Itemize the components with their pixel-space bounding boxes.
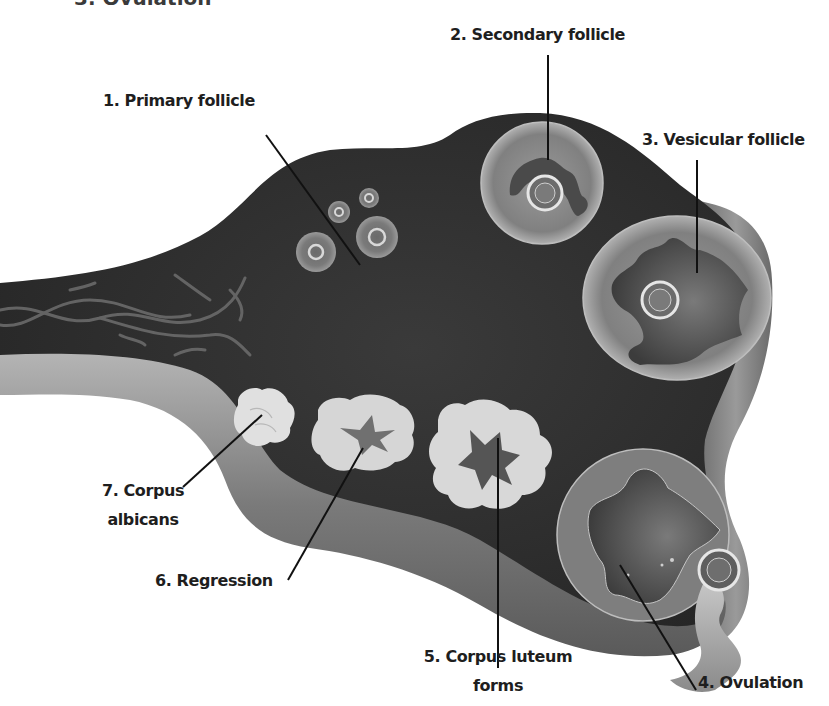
secondary-follicle bbox=[481, 122, 603, 244]
label-corpus-albicans-line2: albicans bbox=[92, 505, 194, 534]
label-ovulation: 4. Ovulation bbox=[698, 668, 803, 697]
label-corpus-albicans: 7. Corpus albicans bbox=[92, 476, 194, 534]
label-corpus-luteum-line2: forms bbox=[412, 671, 584, 700]
label-corpus-luteum-line1: 5. Corpus luteum bbox=[412, 642, 584, 671]
label-vesicular-follicle: 3. Vesicular follicle bbox=[642, 125, 805, 154]
label-corpus-luteum: 5. Corpus luteum forms bbox=[412, 642, 584, 700]
clipped-heading: 3. Ovulation bbox=[74, 0, 212, 10]
label-corpus-albicans-line1: 7. Corpus bbox=[92, 476, 194, 505]
label-secondary-follicle: 2. Secondary follicle bbox=[450, 20, 625, 49]
ovarian-cycle-diagram: 3. Ovulation 1. Primary follicle 2. Seco… bbox=[0, 0, 829, 706]
label-regression: 6. Regression bbox=[155, 566, 273, 595]
regression-body bbox=[312, 395, 415, 471]
vesicular-follicle bbox=[583, 216, 771, 380]
label-primary-follicle: 1. Primary follicle bbox=[103, 86, 255, 115]
